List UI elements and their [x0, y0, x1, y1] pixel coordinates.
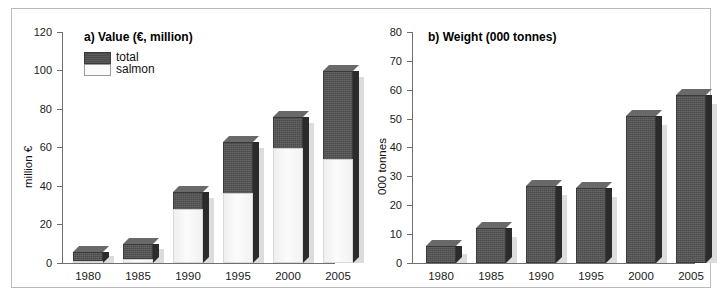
panel-a-ytick-20 — [57, 224, 62, 225]
panel-b-ytick-20 — [407, 205, 412, 206]
panel-a-ytick-80 — [57, 109, 62, 110]
bar-seg-b-2000 — [626, 116, 656, 263]
bar-side-face-b-2000 — [656, 116, 662, 263]
panel-b-ytick-0 — [407, 263, 412, 264]
bar-side-face-1995 — [253, 142, 259, 263]
panel-b-ytick-30 — [407, 176, 412, 177]
panel-a-ytick-0 — [57, 263, 62, 264]
panel-a-xtick-label-2000: 2000 — [263, 270, 313, 282]
panel-b-title: b) Weight (000 tonnes) — [428, 30, 556, 44]
bar-seg-salmon-2000 — [273, 148, 303, 263]
panel-b-ytick-80 — [407, 32, 412, 33]
panel-b-ytick-70 — [407, 61, 412, 62]
legend-label-salmon: salmon — [116, 63, 155, 76]
bar-seg-b-1980 — [426, 246, 456, 263]
panel-b-xtick-label-1980: 1980 — [416, 270, 466, 282]
panel-b-ytick-label-30: 30 — [374, 171, 402, 182]
bar-seg-salmon-1985 — [123, 259, 153, 263]
panel-b-ytick-60 — [407, 90, 412, 91]
bar-seg-b-1990 — [526, 186, 556, 263]
bar-seg-b-2005 — [676, 95, 706, 263]
panel-a-ytick-label-40: 40 — [22, 181, 52, 192]
bar-seg-b-1995 — [576, 188, 606, 263]
panel-b-ytick-50 — [407, 119, 412, 120]
panel-b-xtick-label-1985: 1985 — [466, 270, 516, 282]
panel-b-xtick-label-1995: 1995 — [566, 270, 616, 282]
panel-a-ytick-label-120: 120 — [18, 27, 52, 38]
panel-a-ytick-label-20: 20 — [22, 219, 52, 230]
panel-a-xtick-label-1995: 1995 — [213, 270, 263, 282]
bar-side-face-b-1985 — [506, 228, 512, 263]
panel-a-xtick-label-1980: 1980 — [63, 270, 113, 282]
panel-a-ytick-40 — [57, 186, 62, 187]
panel-b-xtick-label-2005: 2005 — [666, 270, 716, 282]
panel-a-x-axis — [62, 263, 335, 264]
bar-side-face-2005 — [353, 71, 359, 263]
panel-a-ytick-label-80: 80 — [22, 104, 52, 115]
bar-side-face-b-1995 — [606, 188, 612, 263]
panel-b-y-axis — [412, 32, 413, 263]
panel-b-ytick-10 — [407, 234, 412, 235]
bar-side-face-b-1990 — [556, 186, 562, 263]
bar-side-face-b-2005 — [706, 95, 712, 263]
bar-seg-total-2005 — [323, 71, 353, 160]
figure-root: a) Value (€, million) million € 0 20 40 … — [0, 0, 727, 308]
panel-b-ytick-label-80: 80 — [374, 27, 402, 38]
bar-seg-total-2000 — [273, 117, 303, 149]
panel-a-ytick-100 — [57, 70, 62, 71]
bar-side-face-1990 — [203, 192, 209, 263]
legend-swatch-total-icon — [84, 52, 111, 64]
panel-a-ytick-label-0: 0 — [22, 258, 52, 269]
panel-a-xtick-label-1985: 1985 — [113, 270, 163, 282]
panel-b-xtick-label-1990: 1990 — [516, 270, 566, 282]
bar-seg-total-1985 — [123, 244, 153, 259]
panel-a-ytick-label-60: 60 — [22, 142, 52, 153]
panel-b-ytick-label-10: 10 — [374, 229, 402, 240]
bar-seg-total-1990 — [173, 192, 203, 210]
panel-b-xtick-label-2000: 2000 — [616, 270, 666, 282]
panel-a-y-axis — [62, 32, 63, 263]
bar-seg-total-1995 — [223, 142, 253, 194]
panel-b-ytick-40 — [407, 147, 412, 148]
panel-b-ytick-label-60: 60 — [374, 85, 402, 96]
panel-a-xtick-label-1990: 1990 — [163, 270, 213, 282]
chart-panel-value: a) Value (€, million) million € 0 20 40 … — [0, 0, 368, 308]
chart-panel-weight: b) Weight (000 tonnes) 000 tonnes 0 10 2… — [360, 0, 727, 308]
panel-b-x-axis — [412, 263, 695, 264]
panel-b-ytick-label-0: 0 — [374, 258, 402, 269]
panel-b-ytick-label-20: 20 — [374, 200, 402, 211]
bar-side-face-2000 — [303, 117, 309, 263]
panel-a-ytick-60 — [57, 147, 62, 148]
bar-seg-salmon-1990 — [173, 209, 203, 263]
bar-seg-total-1980 — [73, 252, 103, 261]
panel-a-title: a) Value (€, million) — [84, 30, 193, 44]
legend-swatch-salmon-icon — [84, 64, 111, 76]
bar-seg-salmon-1995 — [223, 193, 253, 263]
panel-b-ytick-label-70: 70 — [374, 56, 402, 67]
bar-seg-b-1985 — [476, 228, 506, 263]
panel-b-ytick-label-40: 40 — [374, 142, 402, 153]
panel-a-ytick-120 — [57, 32, 62, 33]
panel-b-ytick-label-50: 50 — [374, 114, 402, 125]
panel-a-ytick-label-100: 100 — [18, 65, 52, 76]
panel-a-xtick-label-2005: 2005 — [313, 270, 363, 282]
bar-seg-salmon-2005 — [323, 159, 353, 263]
bar-seg-salmon-1980 — [73, 261, 103, 263]
